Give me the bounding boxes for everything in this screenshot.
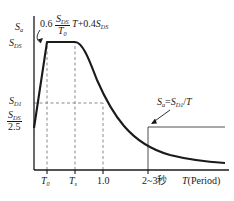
fraction-denominator: 2.5: [7, 122, 22, 133]
xtick-label-ts: Ts: [69, 176, 77, 186]
equation-leader-arrowhead: [151, 119, 157, 125]
x-axis-title: T(Period): [182, 176, 220, 186]
equation-equals: =: [165, 96, 171, 107]
ascending-branch-formula: 0.6 SDS T0 T+0.4SDS: [40, 14, 108, 36]
xtick-label-1p0: 1.0: [97, 176, 110, 186]
equation-period: T: [186, 96, 192, 107]
ytick-label-sd1: SD1: [9, 96, 22, 106]
response-spectrum-figure: [0, 0, 234, 201]
y-axis-symbol: Sa: [15, 22, 23, 32]
formula-coef2: 0.4: [83, 18, 96, 29]
xtick-label-2to3sec: 2~3秒: [142, 176, 167, 186]
formula-coef1: 0.6: [40, 18, 53, 29]
ytick-label-sds: SDS: [9, 38, 22, 48]
xtick-label-t0: T0: [41, 176, 50, 186]
descending-branch-formula: Sa=SD1/T: [157, 97, 192, 107]
ytick-label-sds-over-2p5: SDS 2.5: [7, 110, 22, 132]
